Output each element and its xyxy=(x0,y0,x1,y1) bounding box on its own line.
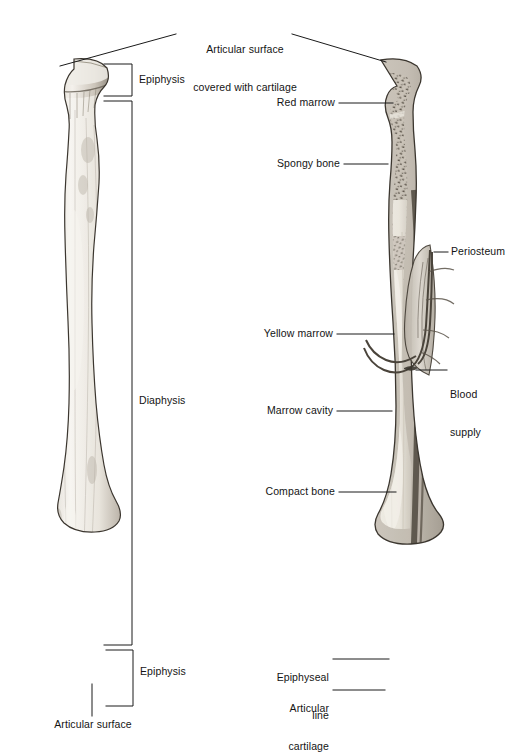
label-red-marrow: Red marrow xyxy=(204,96,335,109)
label-compact-bone: Compact bone xyxy=(201,485,335,498)
label-line-2: covered with cartilage xyxy=(180,81,310,94)
label-marrow-cavity: Marrow cavity xyxy=(199,404,333,417)
label-articular-cartilage: Articular cartilage xyxy=(203,677,329,756)
label-spongy-bone: Spongy bone xyxy=(204,157,340,170)
label-diaphysis: Diaphysis xyxy=(139,394,185,407)
label-line-1: Blood xyxy=(450,388,481,401)
label-line-2: supply xyxy=(450,426,481,439)
label-line-1: Articular surface xyxy=(180,43,310,56)
leader-lines xyxy=(60,34,448,716)
label-blood-supply: Blood supply xyxy=(450,363,481,463)
label-articular-surface: Articular surface xyxy=(34,718,152,731)
label-line-1: Articular xyxy=(203,702,329,715)
left-bone-external xyxy=(20,50,140,710)
label-yellow-marrow: Yellow marrow xyxy=(199,327,333,340)
label-line-2: cartilage xyxy=(203,740,329,753)
label-epiphysis-proximal: Epiphysis xyxy=(139,73,185,86)
label-epiphysis-distal: Epiphysis xyxy=(140,665,186,678)
label-periosteum: Periosteum xyxy=(451,245,505,258)
right-bone-section xyxy=(330,50,460,720)
